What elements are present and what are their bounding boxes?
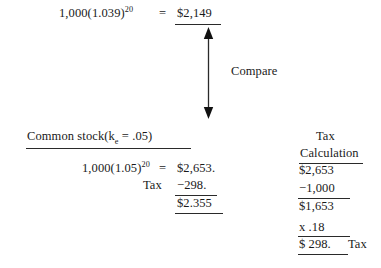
common-stock-gross-value: $2,653. — [177, 161, 215, 176]
tax-calculation-row-5: $ 298. — [299, 237, 331, 252]
common-stock-expression-left: 1,000(1.05)20 — [82, 161, 150, 176]
common-stock-tax-value: −298. — [177, 178, 206, 193]
common-stock-expression-equals: = — [159, 161, 166, 176]
double-headed-vertical-arrow-icon — [200, 27, 217, 119]
tax-calculation-row-2: −1,000 — [299, 181, 335, 196]
tax-calculation-title-line2: Calculation — [300, 146, 359, 161]
top-expression-equals: = — [159, 6, 166, 21]
top-expression-left: 1,000(1.039)20 — [59, 6, 133, 21]
top-expression-exponent: 20 — [125, 5, 133, 14]
tax-calculation-title-line1: Tax — [316, 129, 335, 144]
compare-label: Compare — [231, 64, 278, 79]
common-stock-net-value: $2.355 — [177, 196, 212, 211]
figure-canvas: 1,000(1.039)20 = $2,149 Compare Common s… — [0, 0, 381, 268]
tax-calculation-row-4: x .18 — [299, 220, 325, 235]
tax-calculation-row-3: $1,653 — [299, 199, 334, 214]
tax-calculation-final-underline — [298, 254, 348, 255]
top-expression-value: $2,149 — [177, 6, 212, 21]
common-stock-heading: Common stock(ke = .05) — [27, 129, 152, 144]
tax-calculation-final-note: Tax — [348, 237, 367, 252]
top-value-underline — [175, 24, 221, 25]
common-stock-heading-underline — [26, 148, 191, 149]
common-stock-expression-exponent: 20 — [141, 160, 149, 169]
common-stock-net-underline — [175, 213, 223, 214]
common-stock-tax-label: Tax — [143, 178, 162, 193]
tax-calculation-row-1: $2,653 — [299, 163, 334, 178]
